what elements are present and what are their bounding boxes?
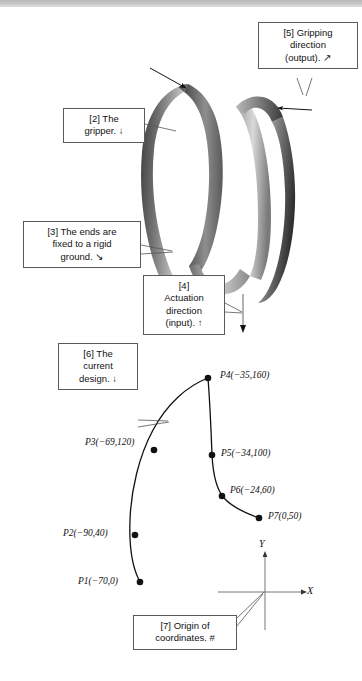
leader-callout-6 xyxy=(138,420,169,427)
callout-6-current-design: [6] The current design. ↓ xyxy=(58,343,138,390)
callout-2-line-2: gripper. ↓ xyxy=(69,125,139,137)
point-marker-p6 xyxy=(219,493,226,500)
point-label-p2: P2(−90,40) xyxy=(63,528,108,538)
callout-6-line-2: current xyxy=(64,360,132,372)
callout-2-line-1: [2] The xyxy=(69,113,139,125)
axis-label-x: X xyxy=(307,585,313,596)
callout-5-line-3: (output). ↗ xyxy=(264,52,352,64)
callout-6-line-3: design. ↓ xyxy=(64,373,132,385)
callout-4-line-3: direction xyxy=(149,305,219,317)
callout-3-fixed-ends: [3] The ends are fixed to a rigid ground… xyxy=(23,221,141,268)
design-curve-illustration xyxy=(0,0,362,681)
callout-7-origin-of-coordinates: [7] Origin of coordinates. # xyxy=(133,615,237,650)
figure-canvas: P4(−35,160) P3(−69,120) P5(−34,100) P6(−… xyxy=(0,0,362,681)
callout-4-line-1: [4] xyxy=(149,280,219,292)
point-marker-p3 xyxy=(151,447,158,454)
leader-callout-7 xyxy=(237,592,264,626)
callout-4-actuation-direction: [4] Actuation direction (input). ↑ xyxy=(143,275,225,335)
point-marker-p5 xyxy=(209,452,216,459)
callout-6-line-1: [6] The xyxy=(64,348,132,360)
axis-label-y: Y xyxy=(259,538,265,549)
point-marker-p4 xyxy=(205,375,212,382)
curve-left-branch xyxy=(130,378,208,580)
callout-4-line-4: (input). ↑ xyxy=(149,317,219,329)
callout-7-line-1: [7] Origin of xyxy=(139,620,231,632)
callout-5-gripping-direction: [5] Gripping direction (output). ↗ xyxy=(258,22,358,69)
point-marker-p7 xyxy=(256,515,263,522)
callout-2-gripper: [2] The gripper. ↓ xyxy=(63,108,145,143)
callout-3-line-1: [3] The ends are xyxy=(29,226,135,238)
point-label-p7: P7(0,50) xyxy=(268,511,302,521)
point-label-p1: P1(−70,0) xyxy=(78,576,118,586)
callout-5-line-1: [5] Gripping xyxy=(264,27,352,39)
point-label-p3: P3(−69,120) xyxy=(85,437,134,447)
point-label-p6: P6(−24,60) xyxy=(230,485,275,495)
point-marker-p2 xyxy=(132,532,139,539)
callout-5-line-2: direction xyxy=(264,39,352,51)
callout-7-line-2: coordinates. # xyxy=(139,632,231,644)
axis-y-arrowhead xyxy=(263,551,268,557)
point-marker-p1 xyxy=(137,579,144,586)
point-label-p5: P5(−34,100) xyxy=(221,448,270,458)
callout-4-line-2: Actuation xyxy=(149,292,219,304)
callout-3-line-3: ground. ↘ xyxy=(29,251,135,263)
callout-3-line-2: fixed to a rigid xyxy=(29,238,135,250)
point-label-p4: P4(−35,160) xyxy=(220,370,269,380)
